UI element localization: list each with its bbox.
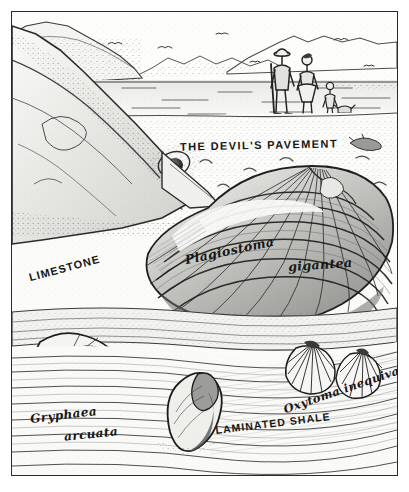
illustration-plate: THE DEVIL'S PAVEMENT LIMESTONE Plagiosto… <box>0 0 409 492</box>
scene-artwork <box>12 12 397 475</box>
illustration-frame: THE DEVIL'S PAVEMENT LIMESTONE Plagiosto… <box>11 11 398 476</box>
